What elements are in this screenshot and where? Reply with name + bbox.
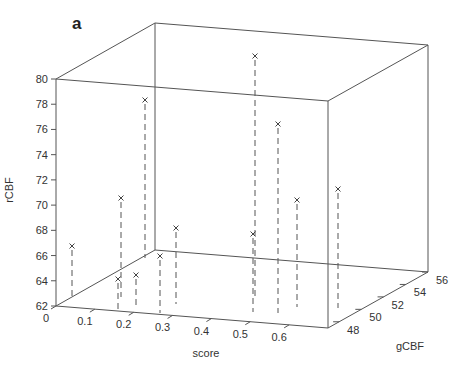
- x-axis-label: score: [193, 347, 220, 359]
- y-tick-label: 52: [392, 299, 404, 311]
- data-markers: [70, 54, 341, 282]
- stems: [72, 60, 338, 313]
- x-tick-label: 0.6: [271, 331, 286, 343]
- x-marker-icon: [295, 198, 300, 203]
- x-marker-icon: [143, 98, 148, 103]
- z-axis-rcbf: 62646668707274767880: [36, 73, 56, 312]
- y-axis-label: gCBF: [396, 340, 424, 352]
- x-marker-icon: [158, 254, 163, 259]
- z-tick-label: 68: [36, 224, 48, 236]
- x-marker-icon: [70, 244, 75, 249]
- 3d-scatter-chart: 62646668707274767880 00.10.20.30.40.50.6…: [0, 0, 472, 379]
- x-tick-label: 0.2: [116, 318, 131, 330]
- axes-box: [56, 23, 428, 328]
- x-marker-icon: [276, 122, 281, 127]
- x-tick-label: 0.5: [233, 328, 248, 340]
- y-tick-label: 56: [436, 274, 448, 286]
- z-tick-label: 72: [36, 174, 48, 186]
- x-tick-label: 0.3: [155, 321, 170, 333]
- y-tick-label: 48: [347, 324, 359, 336]
- x-marker-icon: [253, 54, 258, 59]
- x-tick-label: 0.1: [77, 315, 92, 327]
- z-tick-label: 76: [36, 123, 48, 135]
- x-marker-icon: [134, 273, 139, 278]
- x-axis-score: 00.10.20.30.40.50.6: [43, 306, 289, 343]
- x-tick-label: 0.4: [194, 325, 209, 337]
- z-tick-label: 80: [36, 73, 48, 85]
- y-tick-label: 50: [369, 311, 381, 323]
- x-marker-icon: [336, 187, 341, 192]
- z-tick-label: 78: [36, 98, 48, 110]
- z-tick-label: 74: [36, 149, 48, 161]
- x-tick-label: 0: [43, 312, 49, 324]
- y-tick-label: 54: [414, 286, 426, 298]
- x-marker-icon: [119, 196, 124, 201]
- z-tick-label: 64: [36, 275, 48, 287]
- z-tick-label: 62: [36, 300, 48, 312]
- z-axis-label: rCBF: [3, 177, 15, 203]
- z-tick-label: 66: [36, 250, 48, 262]
- y-axis-gcbf: 4850525456: [333, 272, 448, 336]
- x-marker-icon: [174, 226, 179, 231]
- x-marker-icon: [116, 277, 121, 282]
- z-tick-label: 70: [36, 199, 48, 211]
